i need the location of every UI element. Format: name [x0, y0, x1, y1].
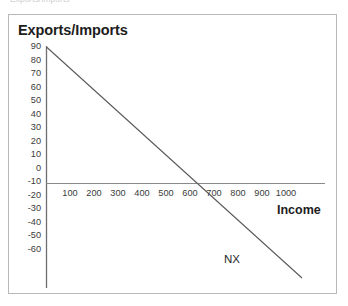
y-tick-label: 90: [11, 42, 41, 51]
y-tick-label: 80: [11, 56, 41, 65]
plot-area: [0, 0, 348, 306]
x-tick-label: 1000: [271, 189, 301, 198]
y-tick-label: 50: [11, 96, 41, 105]
nx-curve-label: NX: [224, 253, 240, 265]
y-tick-label: 20: [11, 137, 41, 146]
y-tick-label: 10: [11, 150, 41, 159]
y-tick-label: -10: [11, 177, 41, 186]
x-axis-label: Income: [277, 203, 321, 217]
y-tick-label: -60: [11, 245, 41, 254]
y-tick-label: -50: [11, 231, 41, 240]
y-tick-label: -30: [11, 204, 41, 213]
y-tick-label: 60: [11, 83, 41, 92]
y-axis-label: Exports/Imports: [18, 22, 128, 38]
y-tick-label: -20: [11, 191, 41, 200]
y-tick-label: 30: [11, 123, 41, 132]
chart-figure: Exports/Imports Exports/Imports Income N…: [0, 0, 348, 306]
nx-line: [47, 47, 303, 278]
y-tick-label: 40: [11, 110, 41, 119]
y-tick-label: -40: [11, 218, 41, 227]
y-tick-label: 70: [11, 69, 41, 78]
y-tick-label: 0: [11, 164, 41, 173]
